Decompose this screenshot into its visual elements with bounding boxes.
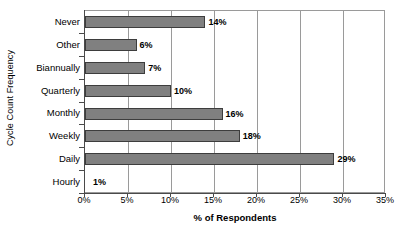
- x-axis-tickmark: [256, 193, 257, 197]
- bar-value-label-daily: 29%: [337, 153, 355, 165]
- y-axis-label-biannually: Biannually: [36, 56, 80, 79]
- y-axis-tickmark: [79, 33, 84, 34]
- bar-quarterly[interactable]: [85, 85, 171, 97]
- bar-weekly[interactable]: [85, 130, 240, 142]
- bar-row-never: 14%: [85, 11, 386, 34]
- x-axis-tickmark: [127, 193, 128, 197]
- y-axis-tickmark: [79, 147, 84, 148]
- y-axis-tickmark: [79, 124, 84, 125]
- bar-monthly[interactable]: [85, 108, 223, 120]
- bar-value-label-never: 14%: [208, 16, 226, 28]
- bar-biannually[interactable]: [85, 62, 145, 74]
- bar-value-label-monthly: 16%: [226, 108, 244, 120]
- plot-area: 14%6%7%10%16%18%29%1%: [84, 10, 385, 193]
- bar-value-label-quarterly: 10%: [174, 85, 192, 97]
- bar-row-monthly: 16%: [85, 103, 386, 126]
- x-axis-tickmark: [299, 193, 300, 197]
- x-axis-tickmark: [342, 193, 343, 197]
- bar-row-daily: 29%: [85, 148, 386, 171]
- y-axis-tickmark: [79, 102, 84, 103]
- y-axis-tickmark: [79, 79, 84, 80]
- bar-row-biannually: 7%: [85, 57, 386, 80]
- y-axis-label-never: Never: [55, 10, 80, 33]
- y-axis-tickmark: [79, 170, 84, 171]
- x-axis-tickmark: [213, 193, 214, 197]
- y-axis-line: [84, 10, 85, 194]
- y-axis-label-quarterly: Quarterly: [41, 79, 80, 102]
- bar-value-label-hourly: 1%: [93, 176, 106, 188]
- bar-row-other: 6%: [85, 34, 386, 57]
- y-axis-label-monthly: Monthly: [47, 102, 80, 125]
- y-axis-label-hourly: Hourly: [53, 170, 80, 193]
- x-axis-tickmark: [385, 193, 386, 197]
- x-axis-tickmark: [84, 193, 85, 197]
- bar-value-label-biannually: 7%: [148, 62, 161, 74]
- x-axis-line: [84, 193, 386, 194]
- bar-daily[interactable]: [85, 153, 334, 165]
- x-axis-tickmark: [170, 193, 171, 197]
- y-axis-title: Cycle Count Frequency: [0, 0, 20, 195]
- y-axis-label-weekly: Weekly: [49, 124, 80, 147]
- bar-value-label-weekly: 18%: [243, 130, 261, 142]
- bar-row-weekly: 18%: [85, 125, 386, 148]
- x-axis-title: % of Respondents: [84, 212, 386, 223]
- y-axis-category-labels: NeverOtherBiannuallyQuarterlyMonthlyWeek…: [18, 10, 80, 193]
- bar-row-hourly: 1%: [85, 171, 386, 194]
- bar-value-label-other: 6%: [140, 39, 153, 51]
- y-axis-label-daily: Daily: [59, 147, 80, 170]
- bar-row-quarterly: 10%: [85, 80, 386, 103]
- bar-never[interactable]: [85, 16, 205, 28]
- chart-figure: Cycle Count Frequency NeverOtherBiannual…: [0, 0, 410, 239]
- x-axis-tick-labels: 0%5%10%15%20%25%30%35%: [84, 195, 386, 209]
- y-axis-label-other: Other: [56, 33, 80, 56]
- y-axis-tickmark: [79, 56, 84, 57]
- y-axis-title-text: Cycle Count Frequency: [5, 49, 15, 145]
- bar-other[interactable]: [85, 39, 137, 51]
